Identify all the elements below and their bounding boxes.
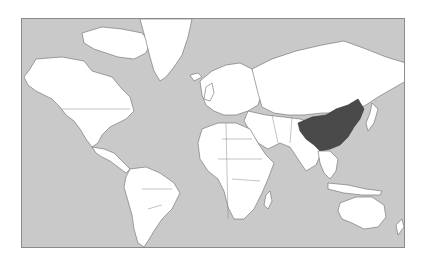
region-australia	[338, 197, 386, 229]
region-russia	[252, 41, 405, 115]
region-canadian-arctic	[82, 27, 150, 59]
world-map	[21, 18, 405, 248]
region-central-america	[92, 147, 130, 173]
region-north-america	[24, 57, 134, 147]
region-south-america	[124, 167, 180, 247]
region-new-zealand	[396, 219, 404, 235]
region-greenland	[140, 19, 192, 81]
region-southeast-asia	[318, 151, 338, 179]
region-indonesia	[328, 183, 382, 195]
region-japan	[366, 103, 378, 131]
region-madagascar	[264, 191, 272, 209]
region-iceland	[190, 73, 202, 81]
map-canvas	[22, 19, 405, 248]
